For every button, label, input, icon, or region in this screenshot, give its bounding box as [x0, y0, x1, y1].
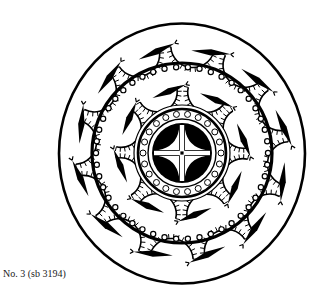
outer-band-hatch: [239, 229, 241, 233]
middle-scallop: [219, 74, 224, 79]
outer-band-hatch: [264, 170, 268, 171]
outer-band-hatch: [245, 224, 249, 226]
middle-scallop: [258, 185, 263, 190]
outer-band-figure-fork: [273, 92, 277, 96]
middle-band-hatch: [222, 106, 225, 109]
middle-scallop: [162, 235, 167, 240]
outer-band-hatch: [158, 62, 162, 63]
core-center: [180, 151, 183, 154]
inner-scallop: [153, 121, 159, 127]
outer-band-figure-fork: [69, 156, 73, 160]
outer-band-hatch: [105, 192, 109, 193]
outer-band-hatch: [192, 254, 196, 255]
inner-scallop: [216, 139, 222, 145]
outer-band-hatch: [84, 162, 86, 166]
middle-band-hatch: [224, 202, 228, 204]
outer-band-hatch: [87, 111, 88, 115]
middle-band-figure-fork: [233, 107, 237, 111]
middle-band-hatch: [219, 194, 222, 198]
outer-band-hatch: [150, 244, 154, 247]
middle-band-hatch: [134, 193, 137, 196]
inner-scallop: [195, 185, 201, 191]
middle-scallop: [93, 150, 98, 155]
middle-scallop: [162, 66, 167, 71]
outer-band-hatch: [258, 94, 262, 96]
middle-scallop: [262, 174, 267, 179]
outer-band-hatch: [234, 85, 236, 89]
middle-band-figure: [228, 171, 242, 204]
inner-scallop: [216, 161, 222, 167]
middle-scallop: [106, 195, 111, 200]
outer-band-hatch: [283, 138, 284, 142]
outer-band-hatch: [147, 75, 149, 79]
middle-band-hatch: [220, 187, 224, 189]
outer-band-hatch: [255, 113, 259, 114]
ornamental-circle-drawing: [0, 0, 330, 307]
middle-scallop: [238, 88, 243, 93]
middle-scallop: [174, 236, 179, 241]
outer-band-hatch: [272, 129, 273, 133]
outer-band-hatch: [88, 160, 91, 164]
middle-band-hatch: [221, 118, 225, 120]
middle-band-hatch: [234, 147, 236, 151]
middle-band-hatch: [223, 190, 227, 193]
outer-band-hatch: [189, 244, 193, 247]
middle-band-hatch: [124, 147, 125, 151]
outer-band-hatch: [219, 68, 223, 69]
middle-band-hatch: [239, 155, 240, 159]
middle-scallop: [174, 65, 179, 70]
middle-band-hatch: [139, 105, 142, 108]
middle-scallop: [97, 174, 102, 179]
figure-caption: No. 3 (sb 3194): [3, 268, 66, 279]
middle-band-hatch: [227, 110, 230, 113]
middle-band-hatch: [175, 205, 179, 207]
middle-scallop: [121, 88, 126, 93]
outer-band-hatch: [172, 59, 176, 62]
outer-band-hatch: [219, 58, 223, 59]
middle-scallop: [229, 80, 234, 85]
middle-scallop: [262, 127, 267, 132]
middle-scallop: [185, 236, 190, 241]
outer-band-hatch: [119, 70, 122, 73]
middle-scallop: [140, 74, 145, 79]
middle-band-hatch: [135, 110, 138, 113]
middle-band-hatch: [216, 111, 218, 115]
middle-scallop: [130, 80, 135, 85]
middle-band-hatch: [115, 147, 116, 151]
middle-scallop: [140, 227, 145, 232]
middle-band-hatch: [143, 108, 146, 112]
middle-band-figure-fork: [174, 221, 178, 225]
middle-scallop: [246, 205, 251, 210]
middle-band-figure: [200, 93, 233, 107]
outer-band-figure-fork: [130, 249, 134, 253]
middle-scallop: [197, 66, 202, 71]
outer-band-hatch: [210, 59, 214, 62]
outer-band-figure-fork: [185, 262, 189, 266]
middle-scallop: [121, 213, 126, 218]
outer-band-hatch: [80, 163, 81, 167]
outer-band-hatch: [180, 65, 182, 69]
middle-band-hatch: [234, 156, 236, 160]
outer-band-hatch: [140, 246, 144, 247]
middle-band-hatch: [138, 113, 142, 116]
outer-band-arc: [84, 74, 116, 112]
middle-scallop: [238, 213, 243, 218]
outer-band-hatch: [97, 112, 98, 116]
middle-band-hatch: [184, 86, 188, 87]
inner-scallop: [212, 129, 218, 135]
inner-scallop: [205, 179, 211, 185]
middle-band-figure-fork: [127, 195, 131, 199]
outer-band-hatch: [102, 210, 106, 212]
middle-scallop: [94, 162, 99, 167]
outer-band-hatch: [128, 216, 130, 220]
middle-scallop: [101, 116, 106, 121]
middle-band-hatch: [176, 219, 180, 220]
middle-band-figure-fork: [136, 98, 140, 102]
outer-band-hatch: [169, 55, 173, 57]
middle-band-hatch: [223, 114, 227, 117]
middle-scallop: [219, 227, 224, 232]
middle-band-hatch: [176, 99, 180, 101]
outer-band-figure-fork: [278, 202, 282, 206]
middle-band-hatch: [184, 205, 188, 207]
middle-scallop: [113, 205, 118, 210]
